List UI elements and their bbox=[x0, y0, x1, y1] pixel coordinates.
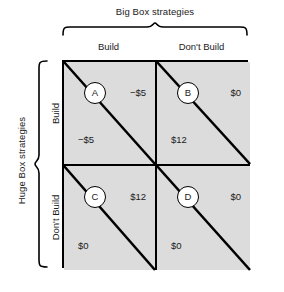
matrix-cell-d[interactable]: D $0 $0 bbox=[157, 166, 250, 270]
row-header-dont-build: Don't Build bbox=[50, 166, 61, 270]
diagonal-divider-icon bbox=[157, 166, 250, 270]
payoff-lower-a: −$5 bbox=[78, 134, 94, 145]
payoff-upper-d: $0 bbox=[230, 191, 241, 202]
column-axis-title: Big Box strategies bbox=[62, 6, 248, 17]
cell-label-b: B bbox=[177, 82, 199, 104]
row-axis-brace-icon bbox=[34, 60, 48, 268]
payoff-lower-b: $12 bbox=[171, 134, 187, 145]
cell-label-a: A bbox=[84, 82, 106, 104]
matrix-cell-a[interactable]: A −$5 −$5 bbox=[64, 62, 157, 166]
payoff-upper-b: $0 bbox=[230, 87, 241, 98]
payoff-lower-d: $0 bbox=[171, 240, 182, 251]
payoff-matrix-figure: Big Box strategies Build Don't Build Hug… bbox=[0, 0, 284, 292]
payoff-upper-c: $12 bbox=[130, 191, 146, 202]
payoff-upper-a: −$5 bbox=[130, 87, 146, 98]
matrix-cell-c[interactable]: C $12 $0 bbox=[64, 166, 157, 270]
cell-label-d: D bbox=[177, 186, 199, 208]
row-header-build: Build bbox=[50, 62, 61, 166]
column-header-build: Build bbox=[62, 41, 155, 52]
matrix-cell-b[interactable]: B $0 $12 bbox=[157, 62, 250, 166]
row-axis-title: Huge Box strategies bbox=[16, 57, 27, 265]
column-header-dont-build: Don't Build bbox=[155, 41, 248, 52]
diagonal-divider-icon bbox=[64, 166, 155, 270]
diagonal-divider-icon bbox=[157, 62, 250, 164]
cell-label-c: C bbox=[84, 186, 106, 208]
column-axis-brace-icon bbox=[62, 22, 248, 36]
matrix-grid: A −$5 −$5 B $0 $12 C $12 $0 D bbox=[62, 60, 248, 268]
payoff-lower-c: $0 bbox=[78, 240, 89, 251]
diagonal-divider-icon bbox=[64, 62, 155, 164]
